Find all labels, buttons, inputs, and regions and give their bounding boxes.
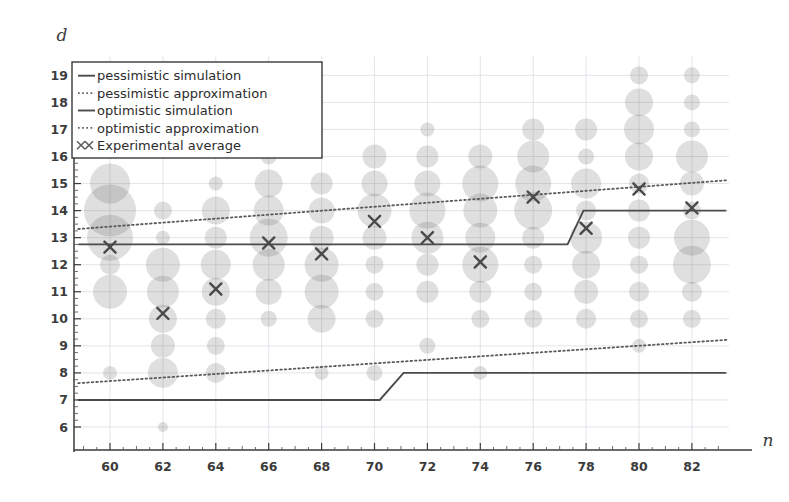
bubble-point [683, 310, 701, 328]
bubble-point [682, 282, 702, 302]
bubble-point [366, 310, 384, 328]
bubble-point [209, 177, 223, 191]
bubble-point [305, 275, 339, 309]
legend-item[interactable]: optimistic simulation [78, 103, 233, 118]
bubble-point [462, 247, 498, 283]
bubble-point [574, 280, 598, 304]
bubble-point [522, 118, 544, 140]
bubble-point [576, 309, 596, 329]
legend: pessimistic simulationpessimistic approx… [72, 62, 322, 158]
bubble-point [624, 114, 654, 144]
bubble-point [471, 310, 489, 328]
bubble-point [311, 173, 333, 195]
series-pessimistic-approximation [78, 180, 726, 229]
bubble-point [87, 215, 133, 261]
x-tick-label: 82 [683, 459, 700, 474]
bubble-point [572, 251, 600, 279]
y-axis-title: d [57, 25, 68, 45]
bubble-point [630, 256, 648, 274]
bubble-point [419, 338, 435, 354]
x-tick-label: 62 [154, 459, 171, 474]
legend-item[interactable]: optimistic approximation [78, 121, 259, 136]
bubble-point [524, 256, 542, 274]
y-tick-label: 11 [51, 284, 68, 299]
bubble-point [524, 310, 542, 328]
bubble-point [416, 146, 438, 168]
bubble-point [420, 122, 434, 136]
bubble-point [684, 67, 700, 83]
y-tick-label: 14 [51, 203, 69, 218]
bubble-point [468, 145, 492, 169]
bubble-point [100, 255, 120, 275]
legend-label: optimistic approximation [97, 121, 259, 136]
bubble-point [148, 358, 178, 388]
bubble-point [578, 149, 594, 165]
y-tick-label: 7 [59, 392, 68, 407]
bubble-point [628, 227, 650, 249]
bubble-point [103, 366, 117, 380]
bubble-point [202, 197, 230, 225]
x-tick-label: 78 [577, 459, 594, 474]
bubble-point [571, 169, 601, 199]
bubble-point [261, 311, 277, 327]
experimental-average-markers [104, 183, 697, 319]
bubble-point [676, 141, 708, 173]
legend-label: pessimistic approximation [97, 86, 267, 101]
x-tick-label: 64 [207, 459, 225, 474]
bubble-point [684, 121, 700, 137]
bubble-point [154, 202, 172, 220]
x-tick-label: 60 [101, 459, 119, 474]
bubble-point [366, 283, 384, 301]
x-tick-label: 70 [366, 459, 384, 474]
bubble-point [93, 275, 127, 309]
bubble-point [363, 145, 387, 169]
bubble-point [253, 249, 285, 281]
bubble-point [524, 283, 542, 301]
bubble-point [201, 250, 231, 280]
bubble-point [206, 309, 226, 329]
bubble-point [362, 171, 388, 197]
bubble-point [366, 256, 384, 274]
y-tick-label: 15 [51, 176, 68, 191]
bubble-point [629, 282, 649, 302]
bubble-scatter-chart: 6789101112131415161718196062646668707274… [0, 0, 789, 502]
y-tick-label: 19 [51, 68, 68, 83]
bubble-point [416, 254, 438, 276]
legend-item[interactable]: Experimental average [77, 138, 241, 153]
bubble-point [158, 422, 168, 432]
bubble-point [256, 279, 282, 305]
legend-label: pessimistic simulation [97, 68, 241, 83]
bubble-point [149, 305, 177, 333]
bubble-point [151, 334, 175, 358]
bubble-point [310, 226, 334, 250]
legend-item[interactable]: pessimistic simulation [78, 68, 241, 83]
bubble-point [673, 246, 711, 284]
bubble-point [575, 118, 597, 140]
bubble-point [625, 88, 653, 116]
bubble-point [156, 231, 170, 245]
x-tick-label: 68 [313, 459, 330, 474]
y-tick-label: 12 [51, 257, 68, 272]
bubble-point [255, 170, 283, 198]
bubble-point [630, 310, 648, 328]
legend-label: optimistic simulation [97, 103, 233, 118]
bubble-point [308, 305, 336, 333]
x-axis-title: n [763, 430, 774, 450]
chart-root: 6789101112131415161718196062646668707274… [0, 0, 789, 502]
bubble-point [684, 94, 700, 110]
bubble-point [570, 222, 602, 254]
y-tick-label: 18 [51, 95, 68, 110]
bubble-point [625, 143, 653, 171]
x-tick-label: 66 [260, 459, 278, 474]
legend-label: Experimental average [97, 138, 241, 153]
y-tick-label: 16 [51, 149, 69, 164]
bubble-point [207, 337, 225, 355]
x-tick-label: 72 [419, 459, 436, 474]
x-tick-label: 76 [524, 459, 542, 474]
y-tick-label: 9 [59, 338, 68, 353]
y-tick-label: 13 [51, 230, 68, 245]
bubble-point [147, 276, 179, 308]
y-tick-label: 10 [51, 311, 69, 326]
bubble-point [469, 281, 491, 303]
legend-item[interactable]: pessimistic approximation [78, 86, 267, 101]
